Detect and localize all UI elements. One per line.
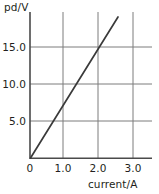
chart-figure: pd/V 15.0 10.0 5.0 0 1.0 2.0 3.0 current… bbox=[0, 0, 159, 194]
y-tick-label-10: 10.0 bbox=[0, 78, 26, 90]
y-tick-label-15: 15.0 bbox=[0, 41, 26, 53]
vertical-gridlines bbox=[63, 12, 133, 158]
x-tick-label-1: 1.0 bbox=[55, 162, 72, 174]
horizontal-gridlines bbox=[30, 47, 152, 121]
x-axis-title: current/A bbox=[88, 178, 138, 190]
x-tick-label-0: 0 bbox=[27, 162, 34, 174]
x-tick-label-2: 2.0 bbox=[90, 162, 107, 174]
x-tick-label-3: 3.0 bbox=[125, 162, 142, 174]
y-tick-label-5: 5.0 bbox=[0, 115, 26, 127]
data-line-series-1 bbox=[31, 17, 119, 158]
